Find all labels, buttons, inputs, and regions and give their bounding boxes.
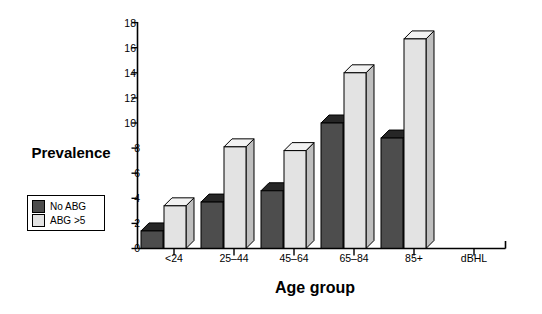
plot-area	[0, 0, 542, 314]
legend-item-abg-gt5: ABG >5	[32, 213, 100, 227]
legend-item-no-abg: No ABG	[32, 199, 100, 213]
bar-abg-gt5-3	[344, 65, 374, 249]
legend-swatch-no-abg	[32, 200, 45, 213]
bar-abg-gt5-1	[224, 139, 254, 249]
legend-label-abg-gt5: ABG >5	[50, 215, 85, 226]
legend-swatch-abg-gt5	[32, 214, 45, 227]
bar-abg-gt5-4	[404, 31, 434, 249]
legend: No ABG ABG >5	[27, 195, 105, 231]
chart-figure: Prevalence (%) Age group 0 2 4 6 8 10 12…	[0, 0, 542, 314]
legend-label-no-abg: No ABG	[50, 201, 86, 212]
bar-abg-gt5-0	[164, 198, 194, 249]
bar-abg-gt5-2	[284, 143, 314, 249]
bars-group	[141, 31, 434, 249]
